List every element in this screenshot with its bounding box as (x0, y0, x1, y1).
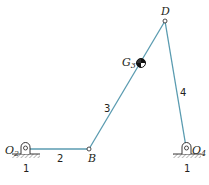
linkage-svg: O2 B D G3 O4 2 3 4 1 1 (0, 0, 209, 185)
link-4 (165, 21, 186, 147)
ground-label-1-left: 1 (23, 163, 29, 174)
center-of-mass-icon (137, 59, 146, 68)
ground-label-1-right: 1 (184, 163, 190, 174)
label-d: D (160, 5, 170, 18)
label-o4: O4 (192, 144, 206, 158)
label-g3: G3 (122, 56, 136, 70)
link-3 (89, 21, 165, 149)
label-o2: O2 (5, 144, 19, 158)
joint-d (163, 19, 167, 23)
label-b: B (87, 152, 96, 165)
joint-b (87, 147, 91, 151)
link-label-2: 2 (57, 153, 63, 164)
four-bar-linkage-diagram: O2 B D G3 O4 2 3 4 1 1 (0, 0, 209, 185)
link-label-3: 3 (104, 103, 110, 114)
link-label-4: 4 (180, 87, 186, 98)
